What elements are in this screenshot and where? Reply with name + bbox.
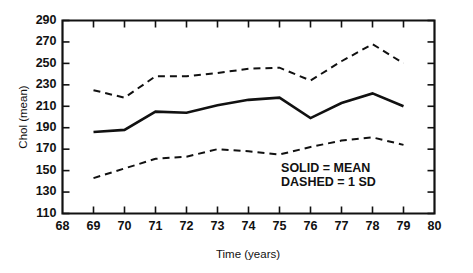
x-tick-label: 79: [397, 219, 411, 233]
y-tick-label: 110: [36, 206, 56, 220]
y-tick-label: 130: [36, 184, 57, 198]
x-tick-label: 78: [366, 219, 380, 233]
y-tick-label: 190: [36, 120, 57, 134]
chart-legend: SOLID = MEANDASHED = 1 SD: [281, 161, 376, 189]
x-tick-label: 71: [149, 219, 163, 233]
y-tick-label: 210: [36, 99, 57, 113]
y-tick-label: 290: [36, 13, 57, 27]
y-tick-label: 150: [36, 163, 57, 177]
y-tick-label: 270: [36, 34, 57, 48]
x-tick-label: 72: [180, 219, 194, 233]
x-tick-label: 68: [56, 219, 70, 233]
y-tick-label: 170: [36, 141, 57, 155]
legend-label-0: SOLID = MEAN: [281, 161, 370, 175]
cholesterol-time-line-chart: 110130150170190210230250270290 686970717…: [0, 0, 473, 273]
x-tick-label: 75: [273, 219, 287, 233]
x-tick-label: 70: [118, 219, 132, 233]
x-tick-label: 69: [87, 219, 101, 233]
y-tick-label: 250: [36, 56, 57, 70]
y-tick-label: 230: [36, 77, 57, 91]
chart-figure: 110130150170190210230250270290 686970717…: [0, 0, 473, 273]
x-tick-label: 73: [211, 219, 225, 233]
legend-label-1: DASHED = 1 SD: [281, 175, 376, 189]
x-tick-label: 80: [428, 219, 442, 233]
y-axis-title: Chol (mean): [17, 85, 29, 148]
x-tick-label: 77: [335, 219, 349, 233]
x-axis-title: Time (years): [216, 248, 280, 260]
x-tick-label: 74: [242, 219, 256, 233]
x-tick-label: 76: [304, 219, 318, 233]
